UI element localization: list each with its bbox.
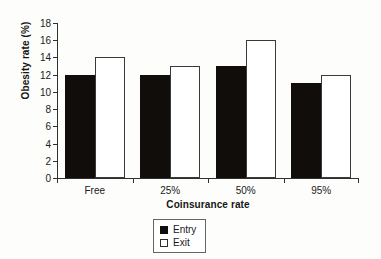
y-tick-label: 0 — [45, 173, 51, 184]
y-tick-label: 18 — [40, 18, 51, 29]
y-tick-mark — [53, 144, 57, 145]
y-tick-label: 6 — [45, 121, 51, 132]
chart-legend: EntryExit — [153, 219, 206, 253]
x-axis-title: Coinsurance rate — [57, 199, 359, 210]
bar-entry-Free — [65, 75, 95, 178]
y-tick-label: 8 — [45, 104, 51, 115]
y-tick-label: 10 — [40, 86, 51, 97]
x-tick-mark — [358, 178, 359, 183]
legend-swatch-icon — [160, 226, 168, 234]
bar-exit-95% — [321, 75, 351, 178]
x-tick-mark — [284, 178, 285, 183]
y-axis-title: Obesity rate (%) — [20, 0, 31, 126]
y-tick-mark — [53, 161, 57, 162]
y-tick-label: 12 — [40, 69, 51, 80]
x-category-label: 25% — [160, 185, 180, 196]
bar-exit-50% — [246, 40, 276, 178]
bar-entry-25% — [140, 75, 170, 178]
x-tick-mark — [133, 178, 134, 183]
legend-item-exit: Exit — [160, 236, 196, 249]
y-tick-label: 4 — [45, 138, 51, 149]
x-category-label: Free — [84, 185, 105, 196]
y-tick-label: 2 — [45, 155, 51, 166]
plot-area: 024681012141618 Free25%50%95% — [57, 23, 359, 178]
y-tick-mark — [53, 23, 57, 24]
legend-label: Entry — [173, 224, 196, 235]
x-category-label: 95% — [311, 185, 331, 196]
bar-exit-Free — [95, 57, 125, 178]
y-tick-mark — [53, 57, 57, 58]
legend-item-entry: Entry — [160, 223, 196, 236]
x-category-label: 50% — [236, 185, 256, 196]
y-tick-mark — [53, 40, 57, 41]
bar-chart: Obesity rate (%) 024681012141618 Free25%… — [0, 0, 381, 259]
y-tick-mark — [53, 126, 57, 127]
y-tick-mark — [53, 109, 57, 110]
legend-swatch-icon — [160, 239, 168, 247]
bar-entry-95% — [291, 83, 321, 178]
y-tick-mark — [53, 75, 57, 76]
bar-exit-25% — [170, 66, 200, 178]
x-tick-mark — [208, 178, 209, 183]
x-tick-mark — [57, 178, 58, 183]
y-tick-label: 14 — [40, 52, 51, 63]
legend-label: Exit — [173, 237, 190, 248]
y-axis-line — [57, 23, 58, 178]
y-tick-mark — [53, 92, 57, 93]
bar-entry-50% — [216, 66, 246, 178]
y-tick-label: 16 — [40, 35, 51, 46]
